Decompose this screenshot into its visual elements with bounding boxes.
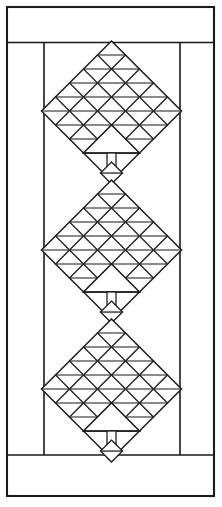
quilt-layout-svg bbox=[0, 0, 222, 507]
quilt-diagram bbox=[0, 0, 222, 507]
basket-blocks-layer bbox=[42, 41, 182, 462]
